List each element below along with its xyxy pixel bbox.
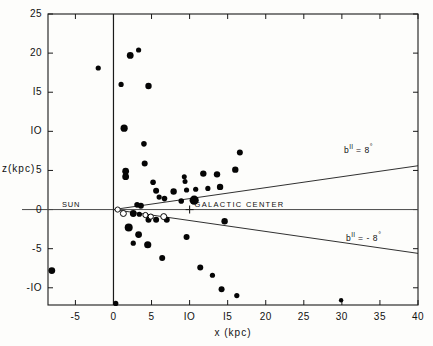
- data-point: [138, 203, 144, 209]
- data-point: [237, 149, 243, 155]
- data-point: [153, 217, 159, 223]
- sun-marker: [115, 207, 120, 212]
- data-point: [221, 218, 227, 224]
- data-point-open: [120, 210, 126, 216]
- data-point: [141, 141, 147, 147]
- y-axis-title: z(kpc): [2, 163, 35, 174]
- reference-label-b-plus-8: bII = 8°: [344, 143, 373, 155]
- data-point: [113, 301, 118, 306]
- data-point: [339, 298, 343, 302]
- x-tick-label: 5: [149, 311, 155, 322]
- data-point: [159, 255, 165, 261]
- data-point: [153, 188, 159, 194]
- data-point: [122, 173, 129, 180]
- data-point: [162, 196, 168, 202]
- data-point: [118, 82, 123, 87]
- figure-scatter-plot: -505IOI52025303540-IO-505IOI52025x (kpc)…: [0, 0, 433, 346]
- data-point: [142, 160, 148, 166]
- x-tick-label: 40: [412, 311, 424, 322]
- data-point: [178, 198, 184, 204]
- plot-canvas: [0, 0, 433, 346]
- y-tick-label: IO: [30, 125, 42, 136]
- sun-label: SUN: [62, 200, 80, 209]
- y-tick-label: 20: [30, 47, 42, 58]
- data-point: [144, 241, 151, 248]
- data-point: [48, 267, 55, 274]
- x-tick-label: 20: [260, 311, 272, 322]
- data-point: [193, 187, 198, 192]
- y-tick-label: 5: [36, 164, 42, 175]
- data-point-open: [148, 214, 153, 219]
- data-point: [127, 52, 134, 59]
- data-point: [121, 125, 128, 132]
- x-tick-label: 0: [110, 311, 116, 322]
- data-point: [170, 188, 176, 194]
- data-point: [125, 224, 133, 232]
- data-point: [210, 273, 215, 278]
- data-point: [137, 212, 142, 217]
- data-point-open: [143, 212, 148, 217]
- y-tick-label: 25: [30, 8, 42, 19]
- data-point: [182, 174, 187, 179]
- data-point: [135, 231, 142, 238]
- data-point: [232, 166, 238, 172]
- x-axis-title: x (kpc): [215, 327, 252, 338]
- data-point: [150, 179, 156, 185]
- data-point: [217, 184, 223, 190]
- data-point: [205, 186, 210, 191]
- galactic-center-label: GALACTIC CENTER: [195, 200, 285, 209]
- y-tick-label: -IO: [27, 282, 42, 293]
- x-tick-label: IO: [184, 311, 196, 322]
- data-point: [234, 293, 239, 298]
- data-point: [184, 234, 190, 240]
- x-tick-label: 30: [336, 311, 348, 322]
- data-point: [200, 170, 206, 176]
- data-point: [197, 264, 203, 270]
- plot-frame: [48, 14, 418, 305]
- data-point: [157, 194, 162, 199]
- data-point: [136, 47, 141, 52]
- x-tick-label: 35: [374, 311, 386, 322]
- data-point: [130, 210, 137, 217]
- data-point: [131, 241, 136, 246]
- data-point: [184, 187, 189, 192]
- data-point: [183, 179, 188, 184]
- data-point: [214, 171, 220, 177]
- x-tick-label: 25: [298, 311, 310, 322]
- reference-label-b-minus-8: bII = - 8°: [346, 231, 382, 243]
- y-tick-label: I5: [33, 86, 42, 97]
- x-tick-label: I5: [223, 311, 232, 322]
- x-tick-label: -5: [70, 311, 80, 322]
- data-point: [219, 286, 225, 292]
- y-tick-label: 0: [36, 204, 42, 215]
- data-point-open: [161, 214, 167, 220]
- data-point: [96, 65, 101, 70]
- y-tick-label: -5: [32, 243, 42, 254]
- data-point: [145, 83, 151, 89]
